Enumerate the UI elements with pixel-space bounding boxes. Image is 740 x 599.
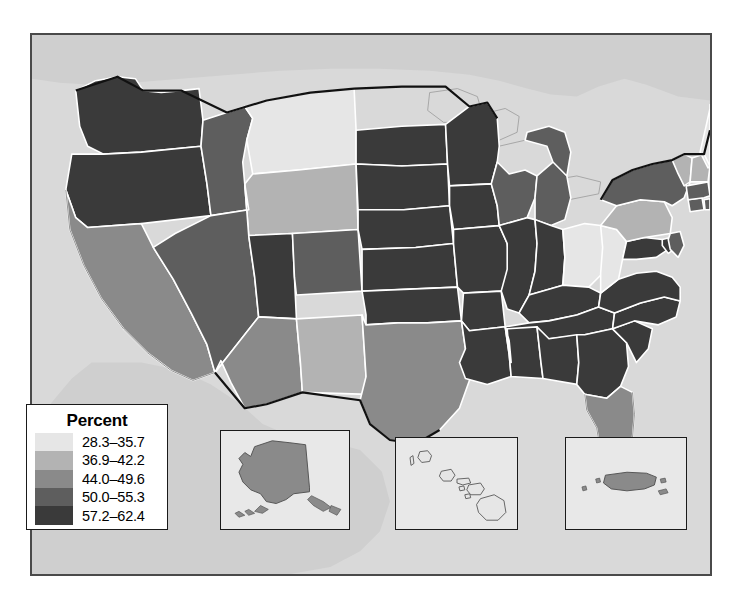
- legend-label: 57.2–62.4: [82, 508, 145, 524]
- state-OR: [66, 146, 211, 227]
- state-MO: [454, 226, 512, 293]
- state-ND: [356, 124, 447, 166]
- legend-row: 44.0–49.6: [35, 470, 167, 488]
- state-LA: [459, 321, 511, 385]
- legend-label: 28.3–35.7: [82, 434, 145, 450]
- state-RI: [704, 199, 710, 210]
- legend-row: 50.0–55.3: [35, 488, 167, 506]
- state-NM: [296, 315, 368, 394]
- legend-title: Percent: [27, 412, 167, 430]
- state-SD: [356, 164, 449, 210]
- legend-row: 57.2–62.4: [35, 506, 167, 524]
- legend-row: 36.9–42.2: [35, 451, 167, 469]
- legend-swatch: [35, 470, 73, 488]
- state-OK: [362, 287, 461, 325]
- hawaii-shape: [396, 438, 517, 529]
- state-MA: [686, 182, 710, 200]
- map-screenshot: Percent 28.3–35.7 36.9–42.2 44.0–49.6 50…: [0, 0, 740, 599]
- legend-swatch: [35, 506, 73, 524]
- legend-swatch: [35, 488, 73, 506]
- alaska-shape: [221, 431, 349, 529]
- legend-label: 50.0–55.3: [82, 489, 145, 505]
- state-NE: [358, 206, 453, 250]
- state-KS: [362, 243, 457, 291]
- state-IA: [450, 184, 500, 230]
- legend-label: 36.9–42.2: [82, 452, 145, 468]
- legend-label: 44.0–49.6: [82, 471, 145, 487]
- state-AR: [461, 291, 505, 331]
- inset-hawaii: [395, 437, 518, 530]
- inset-alaska: [220, 430, 350, 530]
- legend-swatch: [35, 451, 73, 469]
- legend-row: 28.3–35.7: [35, 433, 167, 451]
- state-CO: [292, 230, 362, 296]
- legend-swatch: [35, 433, 73, 451]
- legend-rows: 28.3–35.7 36.9–42.2 44.0–49.6 50.0–55.3 …: [27, 433, 167, 525]
- puerto-rico-shape: [566, 438, 686, 529]
- state-WY: [245, 164, 358, 235]
- inset-puertorico: [565, 437, 687, 530]
- map-legend: Percent 28.3–35.7 36.9–42.2 44.0–49.6 50…: [26, 404, 168, 530]
